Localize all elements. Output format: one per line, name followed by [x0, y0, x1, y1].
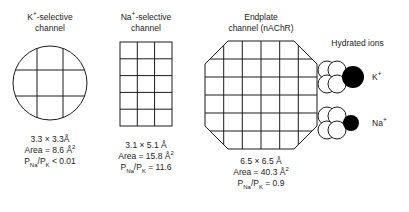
na-channel-dimensions: 3.1 × 5.1 Å	[96, 140, 196, 151]
k-channel-grid	[10, 43, 90, 123]
panel-k-selective-channel: K+-selective channel 3.3 × 3.3Å Area = 8…	[0, 12, 100, 167]
hydrated-ion-na: Na+	[312, 103, 409, 143]
endplate-channel-area: Area = 40.3 Å2	[196, 167, 326, 178]
endplate-channel-title: Endplate channel (nAChR)	[196, 12, 326, 33]
k-channel-pore-diagram	[10, 43, 90, 123]
k-channel-dimensions: 3.3 × 3.3Å	[0, 134, 100, 145]
hydrated-ions-title: Hydrated ions	[312, 38, 409, 49]
endplate-channel-title-line1: Endplate	[244, 12, 278, 22]
endplate-channel-permeability: PNa/PK = 0.9	[196, 178, 326, 189]
panel-na-selective-channel: Na+-selective channel 3.1 × 5.1 Å Area =…	[96, 12, 196, 173]
na-channel-caption: 3.1 × 5.1 Å Area = 15.8 Å2 PNa/PK = 11.6	[96, 140, 196, 173]
endplate-channel-title-line2: channel (nAChR)	[228, 23, 293, 33]
endplate-channel-caption: 6.5 × 6.5 Å Area = 40.3 Å2 PNa/PK = 0.9	[196, 156, 326, 189]
na-channel-title: Na+-selective channel	[96, 12, 196, 33]
k-channel-title: K+-selective channel	[0, 12, 100, 33]
endplate-channel-area-exponent: 2	[285, 166, 288, 172]
k-water-shell	[318, 61, 346, 93]
endplate-channel-grid	[203, 39, 319, 151]
na-channel-pore-diagram	[117, 39, 175, 129]
na-channel-area-text: Area = 15.8 Å	[118, 151, 170, 161]
na-channel-area-exponent: 2	[170, 150, 173, 156]
na-channel-title-ion: Na	[121, 12, 132, 22]
endplate-channel-shape	[196, 39, 326, 151]
k-channel-title-rest: -selective	[37, 12, 73, 22]
na-ion-core	[343, 115, 359, 131]
endplate-channel-area-text: Area = 40.3 Å	[233, 167, 285, 177]
endplate-channel-pore-diagram	[203, 39, 319, 151]
na-channel-outline	[120, 42, 172, 126]
k-channel-caption: 3.3 × 3.3Å Area = 8.6 Å2 PNa/PK < 0.01	[0, 134, 100, 167]
na-channel-area: Area = 15.8 Å2	[96, 151, 196, 162]
hydrated-ion-k: K+	[312, 57, 409, 97]
na-channel-shape	[96, 39, 196, 129]
na-channel-title-line2: channel	[131, 23, 161, 33]
hydrated-k-diagram	[312, 57, 368, 97]
na-channel-permeability: PNa/PK = 11.6	[96, 162, 196, 173]
hydrated-k-label: K+	[372, 72, 381, 82]
ion-channel-figure: K+-selective channel 3.3 × 3.3Å Area = 8…	[0, 0, 409, 212]
hydrated-na-label: Na+	[372, 118, 387, 128]
k-channel-area-text: Area = 8.6 Å	[25, 145, 73, 155]
k-channel-area-exponent: 2	[72, 144, 75, 150]
k-channel-shape	[0, 43, 100, 123]
k-ion-core	[342, 66, 364, 88]
hydrated-na-diagram	[312, 103, 368, 143]
k-channel-permeability: PNa/PK < 0.01	[0, 156, 100, 167]
panel-hydrated-ions: Hydrated ions K+	[312, 38, 409, 143]
na-water-shell	[318, 107, 346, 139]
k-channel-area: Area = 8.6 Å2	[0, 145, 100, 156]
panel-endplate-channel: Endplate channel (nAChR)	[196, 12, 326, 189]
k-channel-title-line2: channel	[35, 23, 65, 33]
na-channel-title-rest: -selective	[135, 12, 171, 22]
na-channel-grid	[120, 42, 172, 126]
k-channel-outline	[13, 46, 87, 120]
endplate-channel-dimensions: 6.5 × 6.5 Å	[196, 156, 326, 167]
